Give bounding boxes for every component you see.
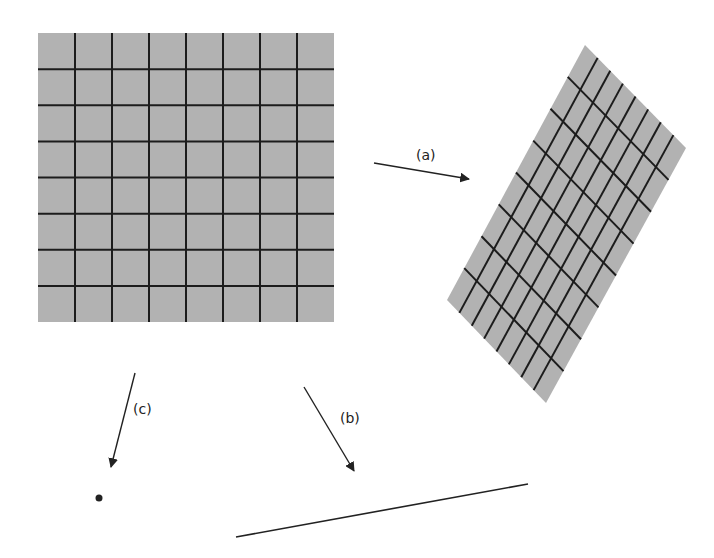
arrow-c: [111, 373, 135, 467]
original-square-grid: [38, 33, 334, 322]
arrow-label-c: (c): [133, 401, 152, 417]
arrow-b: [304, 387, 354, 471]
collapsed-point: [96, 495, 103, 502]
arrow-label-a: (a): [416, 147, 436, 163]
transformation-diagram: [0, 0, 714, 558]
arrow-label-b: (b): [340, 410, 360, 426]
collapsed-line-segment: [236, 484, 528, 537]
arrow-a: [374, 163, 469, 179]
transformed-parallelogram-grid: [447, 45, 686, 403]
